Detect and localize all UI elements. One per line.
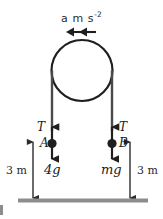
acceleration-label: a m s-2 <box>61 11 102 24</box>
edge-artifact <box>0 205 3 215</box>
weight-label-right: mg <box>101 163 122 176</box>
weight-label-left: 4g <box>44 163 61 176</box>
tension-label-left: T <box>37 121 45 133</box>
mass-dot-right <box>107 139 116 148</box>
height-label-right: 3 m <box>137 165 158 176</box>
acceleration-exponent: -2 <box>94 10 101 19</box>
tension-label-right: T <box>119 121 127 133</box>
acceleration-arrow <box>66 28 96 37</box>
height-label-left: 3 m <box>6 165 27 176</box>
force-group-right <box>107 127 116 159</box>
body-label-b: B <box>119 137 128 149</box>
diagram-canvas <box>0 0 163 219</box>
body-label-a: A <box>40 137 49 149</box>
pulley-system-diagram: a m s-2 T T A B 4g mg 3 m 3 m <box>0 0 163 219</box>
pulley-wheel <box>52 40 113 101</box>
acceleration-value: a m s <box>61 12 94 25</box>
